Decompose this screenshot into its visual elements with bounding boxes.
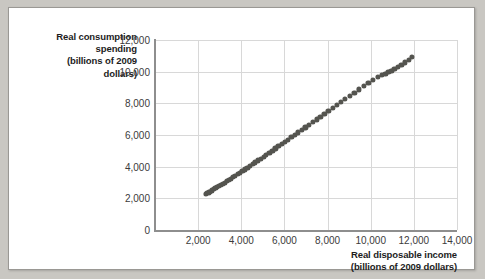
gridline-vertical <box>414 40 415 230</box>
x-axis-title-line-1: Real disposable income <box>237 249 457 261</box>
gridline-horizontal <box>155 198 457 199</box>
x-tick-label: 6,000 <box>272 235 297 246</box>
y-tick-label: 12,000 <box>90 35 150 46</box>
x-tick-label: 10,000 <box>355 235 386 246</box>
y-axis-tick-labels: 02,0004,0006,0008,00010,00012,000 <box>88 8 150 279</box>
plot-area <box>155 40 457 230</box>
gridline-horizontal <box>155 167 457 168</box>
gridline-vertical <box>457 40 458 230</box>
gridline-vertical <box>371 40 372 230</box>
gridline-horizontal <box>155 72 457 73</box>
x-tick-label: 12,000 <box>399 235 430 246</box>
x-axis-title-line-2: (billions of 2009 dollars) <box>237 261 457 273</box>
figure-panel: Real consumption spending (billions of 2… <box>8 7 475 270</box>
y-tick-label: 8,000 <box>90 98 150 109</box>
y-tick-label: 0 <box>90 225 150 236</box>
gridline-horizontal <box>155 40 457 41</box>
x-tick-label: 8,000 <box>315 235 340 246</box>
y-tick-label: 2,000 <box>90 193 150 204</box>
x-axis-line <box>154 230 457 232</box>
x-tick-label: 14,000 <box>442 235 473 246</box>
y-tick-label: 6,000 <box>90 130 150 141</box>
gridline-horizontal <box>155 135 457 136</box>
gridline-vertical <box>198 40 199 230</box>
y-axis-line <box>154 39 156 231</box>
gridline-vertical <box>241 40 242 230</box>
y-tick-label: 4,000 <box>90 161 150 172</box>
x-tick-label: 2,000 <box>186 235 211 246</box>
gridline-vertical <box>328 40 329 230</box>
x-axis-title: Real disposable income (billions of 2009… <box>237 249 457 273</box>
gridline-vertical <box>284 40 285 230</box>
x-tick-label: 4,000 <box>229 235 254 246</box>
gridline-horizontal <box>155 103 457 104</box>
y-tick-label: 10,000 <box>90 66 150 77</box>
